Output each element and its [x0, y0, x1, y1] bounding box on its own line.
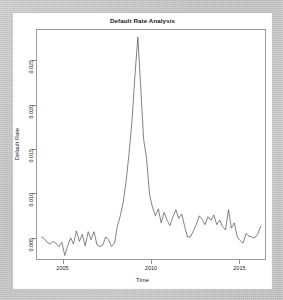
- chart-title: Default Rate Analysis: [14, 17, 271, 25]
- y-tick-label: 0.015: [27, 149, 33, 163]
- series-default-rate-line: [41, 37, 260, 255]
- series-line-chart: [37, 30, 265, 259]
- x-tick-label: 2005: [56, 265, 68, 271]
- y-tick-label: 0.025: [27, 60, 33, 74]
- y-tick-label: 0.020: [27, 105, 33, 119]
- x-tick-mark: [151, 260, 152, 264]
- x-tick-mark: [239, 260, 240, 264]
- x-tick-label: 2010: [145, 265, 157, 271]
- y-tick-label: 0.005: [27, 238, 33, 252]
- chart-card: Default Rate Analysis 0.0050.0100.0150.0…: [14, 14, 271, 288]
- x-axis: 200520102015: [36, 260, 266, 276]
- x-axis-title: Time: [14, 277, 271, 283]
- y-tick-label: 0.010: [27, 193, 33, 207]
- x-tick-label: 2015: [233, 265, 245, 271]
- x-tick-mark: [63, 260, 64, 264]
- plot-area: [36, 29, 266, 260]
- y-axis-title: Default Rate: [14, 128, 20, 160]
